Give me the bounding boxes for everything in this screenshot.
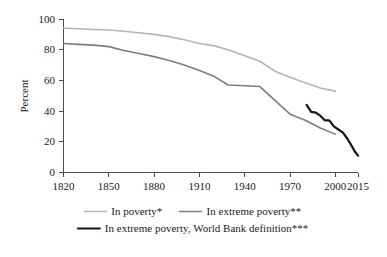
x-tick-label: 1820 xyxy=(53,180,76,192)
y-axis-title: Percent xyxy=(18,80,30,113)
series-lines xyxy=(64,28,359,155)
y-tick-label: 60 xyxy=(44,74,56,86)
y-axis-tick-labels: 020406080100 xyxy=(39,13,56,179)
series-line-2 xyxy=(307,105,358,156)
poverty-trend-chart-figure: 020406080100 Percent 1820185018801910194… xyxy=(0,0,387,257)
x-tick-label: 1940 xyxy=(234,180,257,192)
y-tick-label: 40 xyxy=(44,105,56,117)
x-tick-label: 2000 xyxy=(324,180,347,192)
y-tick-label: 20 xyxy=(44,135,56,147)
series-line-1 xyxy=(64,44,336,135)
x-tick-label: 1910 xyxy=(188,180,211,192)
y-axis-ticks xyxy=(59,19,64,173)
x-axis: 18201850188019101940197020002015 xyxy=(53,173,370,193)
legend-label: In poverty* xyxy=(111,205,162,217)
y-tick-label: 100 xyxy=(39,13,56,25)
y-axis: 020406080100 Percent xyxy=(18,13,64,179)
y-tick-label: 0 xyxy=(50,166,56,178)
x-axis-tick-labels: 18201850188019101940197020002015 xyxy=(53,180,370,192)
legend-label: In extreme poverty, World Bank definitio… xyxy=(105,222,308,234)
x-axis-ticks xyxy=(64,173,359,178)
x-tick-label: 1970 xyxy=(279,180,302,192)
x-tick-label: 1850 xyxy=(98,180,121,192)
chart-legend: In poverty*In extreme poverty**In extrem… xyxy=(78,205,308,234)
series-line-0 xyxy=(64,28,336,91)
y-tick-label: 80 xyxy=(44,43,56,55)
legend-label: In extreme poverty** xyxy=(207,205,302,217)
x-tick-label: 2015 xyxy=(347,180,370,192)
chart-canvas: 020406080100 Percent 1820185018801910194… xyxy=(0,0,387,257)
x-tick-label: 1880 xyxy=(143,180,166,192)
